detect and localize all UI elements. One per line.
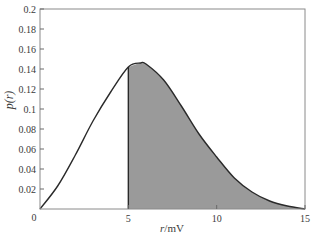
y-tick-label: 0.12 (19, 84, 37, 95)
x-axis-label: r/mV (160, 222, 184, 234)
y-tick-label: 0.16 (19, 44, 37, 55)
y-tick-label: 0.06 (19, 144, 37, 155)
x-tick-label: 10 (212, 213, 222, 224)
shaded-area-r-gt-5 (128, 62, 305, 209)
y-tick-label: 0.2 (24, 4, 37, 15)
x-tick-label: 15 (300, 213, 310, 224)
x-tick-label: 5 (126, 213, 131, 224)
probability-density-chart: 0.020.040.060.080.10.120.140.160.180.20 … (0, 0, 312, 236)
y-axis-label: p(r) (2, 91, 16, 111)
y-tick-label: 0.02 (19, 184, 37, 195)
y-tick-label: 0.1 (24, 104, 37, 115)
y-tick-label: 0.18 (19, 24, 37, 35)
y-tick-label: 0.14 (19, 64, 37, 75)
y-tick-label: 0.08 (19, 124, 37, 135)
y-tick-label: 0.04 (19, 164, 37, 175)
origin-label: 0 (32, 212, 37, 223)
